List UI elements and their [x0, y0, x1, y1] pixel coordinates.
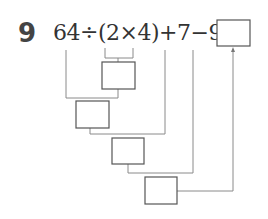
step3-box	[112, 138, 144, 164]
step1-box	[102, 62, 135, 89]
step4-box	[145, 177, 177, 204]
connector-answer	[177, 50, 233, 191]
arrow-up-icon	[231, 47, 235, 52]
order-of-operations-diagram	[0, 0, 268, 219]
answer-box	[217, 20, 250, 46]
step2-box	[76, 101, 109, 128]
bracket-2x4	[105, 48, 133, 58]
